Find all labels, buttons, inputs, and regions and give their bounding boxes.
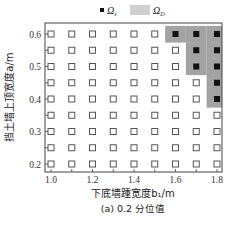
open-square-marker — [131, 145, 137, 151]
open-square-marker — [90, 80, 96, 86]
open-square-marker — [131, 129, 137, 135]
legend-filled-square-icon — [100, 8, 104, 12]
open-square-marker — [131, 112, 137, 118]
open-square-marker — [90, 64, 96, 70]
x-tick-label: 1.4 — [128, 175, 140, 185]
open-square-marker — [152, 96, 158, 102]
figure-caption: (a) 0.2 分位值 — [101, 203, 165, 214]
open-square-marker — [90, 129, 96, 135]
open-square-marker — [110, 80, 116, 86]
y-tick-label: 0.5 — [29, 62, 41, 72]
open-square-marker — [69, 31, 75, 37]
markers — [48, 31, 220, 167]
open-square-marker — [173, 145, 179, 151]
open-square-marker — [48, 31, 54, 37]
open-square-marker — [131, 47, 137, 53]
y-axis-label: 挡土墙上顶宽度a/m — [3, 52, 15, 141]
open-square-marker — [110, 31, 116, 37]
open-square-marker — [173, 112, 179, 118]
open-square-marker — [173, 129, 179, 135]
open-square-marker — [90, 112, 96, 118]
open-square-marker — [152, 161, 158, 167]
legend: ΩsΩD — [100, 5, 165, 17]
open-square-marker — [173, 96, 179, 102]
x-tick-label: 1.6 — [170, 175, 182, 185]
open-square-marker — [152, 112, 158, 118]
open-square-marker — [69, 80, 75, 86]
open-square-marker — [110, 96, 116, 102]
open-square-marker — [214, 161, 220, 167]
open-square-marker — [69, 145, 75, 151]
open-square-marker — [152, 47, 158, 53]
open-square-marker — [173, 80, 179, 86]
open-square-marker — [48, 47, 54, 53]
filled-square-marker — [214, 47, 220, 53]
open-square-marker — [152, 64, 158, 70]
open-square-marker — [173, 161, 179, 167]
open-square-marker — [214, 129, 220, 135]
open-square-marker — [69, 129, 75, 135]
filled-square-marker — [173, 31, 179, 37]
open-square-marker — [48, 145, 54, 151]
y-tick-label: 0.6 — [29, 30, 41, 40]
open-square-marker — [48, 96, 54, 102]
filled-square-marker — [193, 64, 199, 70]
open-square-marker — [131, 31, 137, 37]
open-square-marker — [152, 31, 158, 37]
filled-square-marker — [193, 47, 199, 53]
open-square-marker — [173, 64, 179, 70]
open-square-marker — [193, 80, 199, 86]
open-square-marker — [90, 47, 96, 53]
x-tick-label: 1.2 — [87, 175, 99, 185]
open-square-marker — [110, 145, 116, 151]
open-square-marker — [152, 145, 158, 151]
open-square-marker — [193, 112, 199, 118]
x-tick-label: 1.8 — [211, 175, 223, 185]
open-square-marker — [214, 145, 220, 151]
y-tick-label: 0.3 — [29, 127, 41, 137]
legend-shade-swatch-icon — [130, 5, 150, 15]
open-square-marker — [69, 161, 75, 167]
open-square-marker — [193, 129, 199, 135]
open-square-marker — [214, 112, 220, 118]
open-square-marker — [131, 64, 137, 70]
open-square-marker — [131, 96, 137, 102]
filled-square-marker — [214, 64, 220, 70]
legend-label-omega-d: ΩD — [153, 5, 165, 17]
chart: ΩsΩD 1.01.21.41.61.80.20.30.40.50.6 下底墙踵… — [0, 0, 235, 226]
open-square-marker — [48, 80, 54, 86]
open-square-marker — [131, 161, 137, 167]
filled-square-marker — [214, 96, 220, 102]
y-tick-label: 0.4 — [29, 95, 41, 105]
open-square-marker — [193, 161, 199, 167]
open-square-marker — [69, 47, 75, 53]
filled-square-marker — [214, 31, 220, 37]
open-square-marker — [193, 96, 199, 102]
open-square-marker — [69, 112, 75, 118]
filled-square-marker — [214, 80, 220, 86]
open-square-marker — [110, 64, 116, 70]
open-square-marker — [69, 96, 75, 102]
open-square-marker — [90, 145, 96, 151]
x-tick-label: 1.0 — [45, 175, 57, 185]
open-square-marker — [90, 96, 96, 102]
legend-label-omega-s: Ωs — [107, 5, 117, 17]
open-square-marker — [173, 47, 179, 53]
open-square-marker — [48, 161, 54, 167]
open-square-marker — [110, 161, 116, 167]
open-square-marker — [110, 112, 116, 118]
open-square-marker — [48, 112, 54, 118]
open-square-marker — [48, 129, 54, 135]
open-square-marker — [69, 64, 75, 70]
open-square-marker — [90, 161, 96, 167]
open-square-marker — [152, 129, 158, 135]
open-square-marker — [110, 47, 116, 53]
x-axis-label: 下底墙踵宽度b₁/m — [91, 187, 174, 199]
filled-square-marker — [193, 31, 199, 37]
open-square-marker — [110, 129, 116, 135]
open-square-marker — [152, 80, 158, 86]
y-tick-label: 0.2 — [29, 160, 41, 170]
open-square-marker — [131, 80, 137, 86]
open-square-marker — [193, 145, 199, 151]
open-square-marker — [90, 31, 96, 37]
